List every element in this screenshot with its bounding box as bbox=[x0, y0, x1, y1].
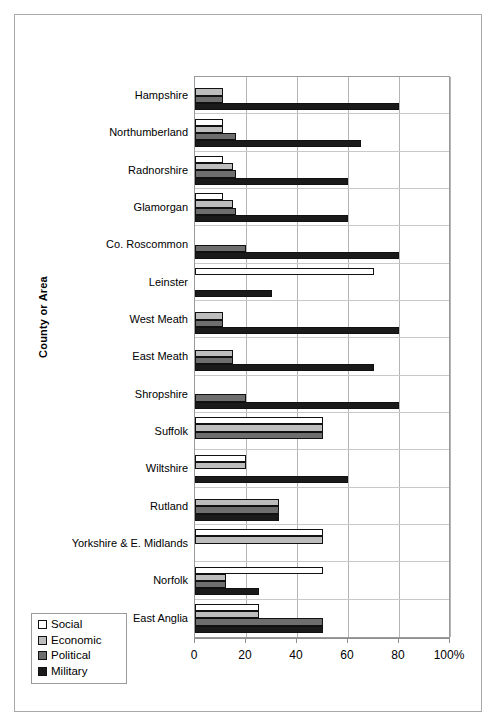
bar-social bbox=[195, 417, 323, 424]
plot-right-border bbox=[449, 76, 450, 638]
legend-item-social: Social bbox=[38, 619, 120, 631]
x-axis-tick-label: 60 bbox=[340, 648, 353, 662]
bar-economic bbox=[195, 462, 246, 469]
bar-military bbox=[195, 290, 272, 297]
bar-political bbox=[195, 245, 246, 252]
bar-military bbox=[195, 178, 348, 185]
category-label: East Meath bbox=[132, 350, 188, 362]
x-axis-tick bbox=[296, 638, 297, 643]
x-axis-line bbox=[194, 638, 450, 639]
bar-military bbox=[195, 252, 399, 259]
bar-group: Radnorshire bbox=[195, 152, 450, 189]
x-axis-tick bbox=[449, 638, 450, 643]
y-axis-title: County or Area bbox=[37, 237, 49, 397]
bar-group: Leinster bbox=[195, 264, 450, 301]
legend-swatch-economic-icon bbox=[38, 636, 47, 645]
bar-group: West Meath bbox=[195, 301, 450, 338]
bar-military bbox=[195, 402, 399, 409]
bar-military bbox=[195, 626, 323, 633]
x-axis-tick bbox=[347, 638, 348, 643]
x-axis-tick bbox=[398, 638, 399, 643]
gridline bbox=[450, 77, 451, 637]
category-label: East Anglia bbox=[133, 612, 188, 624]
bar-economic bbox=[195, 424, 323, 431]
x-axis-tick bbox=[194, 638, 195, 643]
bar-political bbox=[195, 394, 246, 401]
legend-label: Political bbox=[51, 650, 91, 662]
bar-social bbox=[195, 268, 374, 275]
bar-military bbox=[195, 364, 374, 371]
category-label: Radnorshire bbox=[128, 164, 188, 176]
bar-military bbox=[195, 588, 259, 595]
legend-label: Economic bbox=[51, 635, 102, 647]
legend-swatch-political-icon bbox=[38, 651, 47, 660]
bar-group: East Meath bbox=[195, 338, 450, 375]
chart-legend: SocialEconomicPoliticalMilitary bbox=[31, 613, 127, 684]
bar-political bbox=[195, 432, 323, 439]
bar-economic bbox=[195, 611, 259, 618]
bar-political bbox=[195, 170, 236, 177]
bar-social bbox=[195, 156, 223, 163]
bar-social bbox=[195, 119, 223, 126]
bar-political bbox=[195, 208, 236, 215]
bar-economic bbox=[195, 312, 223, 319]
legend-item-economic: Economic bbox=[38, 635, 120, 647]
bar-social bbox=[195, 529, 323, 536]
chart-figure: County or Area HampshireNorthumberlandRa… bbox=[14, 14, 482, 712]
bar-social bbox=[195, 193, 223, 200]
bar-political bbox=[195, 96, 223, 103]
bar-economic bbox=[195, 499, 279, 506]
bar-group: Shropshire bbox=[195, 376, 450, 413]
bar-military bbox=[195, 327, 399, 334]
bar-military bbox=[195, 514, 279, 521]
bar-group: Northumberland bbox=[195, 114, 450, 151]
bar-social bbox=[195, 604, 259, 611]
x-axis-tick-label: 40 bbox=[289, 648, 302, 662]
category-label: Rutland bbox=[150, 500, 188, 512]
bar-economic bbox=[195, 88, 223, 95]
legend-label: Social bbox=[51, 619, 82, 631]
bar-military bbox=[195, 215, 348, 222]
bar-political bbox=[195, 581, 226, 588]
bar-political bbox=[195, 357, 233, 364]
legend-item-political: Political bbox=[38, 650, 120, 662]
bar-economic bbox=[195, 536, 323, 543]
bar-group: East Anglia bbox=[195, 600, 450, 637]
legend-swatch-military-icon bbox=[38, 667, 47, 676]
bar-economic bbox=[195, 350, 233, 357]
bar-military bbox=[195, 103, 399, 110]
bar-group: Suffolk bbox=[195, 413, 450, 450]
bar-group: Yorkshire & E. Midlands bbox=[195, 525, 450, 562]
bar-political bbox=[195, 618, 323, 625]
bar-social bbox=[195, 567, 323, 574]
category-label: Shropshire bbox=[135, 388, 188, 400]
bar-group: Glamorgan bbox=[195, 189, 450, 226]
bar-military bbox=[195, 140, 361, 147]
bar-group: Co. Roscommon bbox=[195, 226, 450, 263]
category-label: Co. Roscommon bbox=[106, 238, 188, 250]
bar-group: Rutland bbox=[195, 488, 450, 525]
legend-item-military: Military bbox=[38, 666, 120, 678]
bar-political bbox=[195, 506, 279, 513]
bar-economic bbox=[195, 126, 223, 133]
category-label: Hampshire bbox=[135, 89, 188, 101]
x-axis-tick bbox=[245, 638, 246, 643]
category-label: Norfolk bbox=[153, 574, 188, 586]
x-axis-tick-label: 20 bbox=[238, 648, 251, 662]
legend-label: Military bbox=[51, 666, 87, 678]
category-label: Suffolk bbox=[155, 425, 188, 437]
bar-political bbox=[195, 133, 236, 140]
bar-military bbox=[195, 476, 348, 483]
x-axis-tick-label: 100% bbox=[434, 648, 465, 662]
category-label: West Meath bbox=[130, 313, 189, 325]
x-axis-tick-label: 80 bbox=[391, 648, 404, 662]
bar-group: Norfolk bbox=[195, 562, 450, 599]
bar-group: Hampshire bbox=[195, 77, 450, 114]
bar-economic bbox=[195, 574, 226, 581]
category-label: Leinster bbox=[149, 276, 188, 288]
category-label: Northumberland bbox=[109, 126, 188, 138]
x-axis-tick-label: 0 bbox=[191, 648, 198, 662]
category-label: Yorkshire & E. Midlands bbox=[72, 537, 188, 549]
bar-economic bbox=[195, 163, 233, 170]
bar-social bbox=[195, 455, 246, 462]
